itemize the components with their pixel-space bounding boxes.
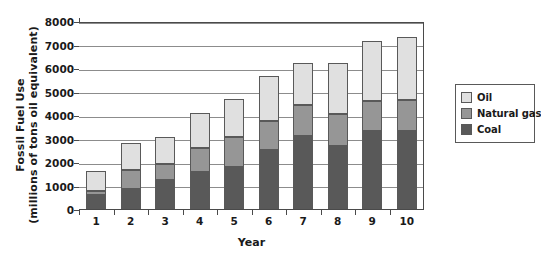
- y-tick-mark-4000: [74, 116, 79, 117]
- legend-label-2: Coal: [477, 124, 501, 135]
- legend-item-coal: Coal: [461, 122, 530, 137]
- y-tick-mark-7000: [74, 46, 79, 47]
- x-tick-mark-3: [183, 210, 184, 215]
- legend-swatch-icon-0: [461, 92, 472, 103]
- chart-legend: OilNatural gasCoal: [455, 84, 535, 143]
- bar-segment-coal-year-4: [190, 172, 210, 209]
- bar-group-year-9: [362, 21, 382, 209]
- y-tick-label-7000: 7000: [32, 40, 74, 52]
- bar-segment-natural-gas-year-2: [121, 170, 141, 189]
- x-tick-label-4: 4: [185, 215, 215, 227]
- y-tick-label-6000: 6000: [32, 63, 74, 75]
- bar-segment-coal-year-3: [155, 180, 175, 209]
- y-axis-tick-labels: 010002000300040005000600070008000: [28, 0, 74, 263]
- bar-segment-oil-year-3: [155, 137, 175, 165]
- bar-segment-natural-gas-year-9: [362, 101, 382, 132]
- y-tick-mark-5000: [74, 93, 79, 94]
- x-tick-label-7: 7: [288, 215, 318, 227]
- bar-segment-coal-year-10: [397, 131, 417, 209]
- x-tick-mark-8: [355, 210, 356, 215]
- bar-group-year-3: [155, 21, 175, 209]
- bar-group-year-2: [121, 21, 141, 209]
- bar-series-container: [79, 23, 423, 209]
- plot-area: [79, 22, 424, 210]
- bar-segment-natural-gas-year-10: [397, 100, 417, 131]
- bar-segment-natural-gas-year-5: [224, 137, 244, 166]
- bar-segment-natural-gas-year-6: [259, 121, 279, 150]
- x-tick-label-1: 1: [81, 215, 111, 227]
- bar-segment-oil-year-1: [86, 171, 106, 191]
- x-tick-mark-0: [79, 210, 80, 215]
- bar-group-year-1: [86, 21, 106, 209]
- bar-segment-coal-year-2: [121, 189, 141, 209]
- bar-group-year-10: [397, 21, 417, 209]
- y-tick-mark-3000: [74, 140, 79, 141]
- legend-swatch-icon-2: [461, 124, 472, 135]
- legend-item-oil: Oil: [461, 90, 530, 105]
- y-tick-label-1000: 1000: [32, 181, 74, 193]
- bar-segment-natural-gas-year-8: [328, 114, 348, 146]
- x-tick-label-8: 8: [323, 215, 353, 227]
- x-tick-mark-6: [286, 210, 287, 215]
- bar-segment-oil-year-5: [224, 99, 244, 138]
- x-tick-mark-4: [217, 210, 218, 215]
- bar-segment-oil-year-8: [328, 63, 348, 115]
- bar-segment-oil-year-4: [190, 113, 210, 148]
- bar-segment-coal-year-7: [293, 136, 313, 209]
- bar-segment-oil-year-10: [397, 37, 417, 100]
- bar-segment-oil-year-2: [121, 143, 141, 170]
- x-tick-label-3: 3: [150, 215, 180, 227]
- y-tick-label-4000: 4000: [32, 110, 74, 122]
- bar-segment-oil-year-9: [362, 41, 382, 101]
- bar-segment-coal-year-5: [224, 167, 244, 209]
- legend-label-1: Natural gas: [477, 108, 541, 119]
- bar-segment-coal-year-6: [259, 150, 279, 209]
- y-tick-mark-2000: [74, 163, 79, 164]
- x-tick-mark-2: [148, 210, 149, 215]
- y-tick-label-0: 0: [32, 204, 74, 216]
- x-tick-label-10: 10: [392, 215, 422, 227]
- bar-segment-coal-year-1: [86, 195, 106, 209]
- bar-segment-natural-gas-year-7: [293, 105, 313, 136]
- y-tick-mark-1000: [74, 187, 79, 188]
- x-tick-mark-9: [390, 210, 391, 215]
- x-tick-label-2: 2: [116, 215, 146, 227]
- legend-item-natural-gas: Natural gas: [461, 106, 530, 121]
- x-tick-label-9: 9: [357, 215, 387, 227]
- bar-segment-oil-year-7: [293, 63, 313, 106]
- y-tick-mark-6000: [74, 69, 79, 70]
- bar-segment-natural-gas-year-1: [86, 191, 106, 195]
- bar-group-year-8: [328, 21, 348, 209]
- y-tick-mark-8000: [74, 22, 79, 23]
- bar-group-year-5: [224, 21, 244, 209]
- legend-label-0: Oil: [477, 92, 492, 103]
- x-tick-label-6: 6: [254, 215, 284, 227]
- x-tick-mark-7: [321, 210, 322, 215]
- bar-group-year-6: [259, 21, 279, 209]
- x-axis-title: Year: [79, 236, 424, 249]
- bar-segment-coal-year-8: [328, 146, 348, 209]
- y-axis-title-line-1: Fossil Fuel Use: [15, 78, 28, 171]
- y-tick-label-8000: 8000: [32, 16, 74, 28]
- legend-swatch-icon-1: [461, 108, 472, 119]
- y-tick-label-5000: 5000: [32, 87, 74, 99]
- bar-group-year-7: [293, 21, 313, 209]
- bar-segment-natural-gas-year-3: [155, 164, 175, 179]
- bar-segment-natural-gas-year-4: [190, 148, 210, 172]
- y-tick-label-2000: 2000: [32, 157, 74, 169]
- bar-group-year-4: [190, 21, 210, 209]
- x-tick-mark-1: [114, 210, 115, 215]
- x-tick-mark-5: [252, 210, 253, 215]
- bar-segment-coal-year-9: [362, 131, 382, 209]
- bar-segment-oil-year-6: [259, 76, 279, 121]
- x-tick-label-5: 5: [219, 215, 249, 227]
- y-tick-label-3000: 3000: [32, 134, 74, 146]
